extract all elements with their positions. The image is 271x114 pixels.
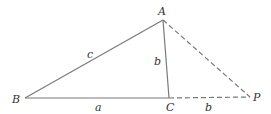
diagram-svg: A B C P c b a b — [0, 0, 271, 114]
edge-ab — [25, 20, 163, 98]
edge-ap-dashed — [163, 20, 250, 97]
vertex-label-c: C — [166, 101, 175, 114]
edge-cp-dashed — [169, 97, 250, 98]
vertex-label-p: P — [252, 91, 261, 104]
edge-label-a: a — [95, 101, 102, 114]
vertex-label-b: B — [11, 93, 20, 106]
triangle-diagram: A B C P c b a b — [0, 0, 271, 114]
vertex-label-a: A — [157, 5, 166, 18]
edge-label-b-cp: b — [205, 101, 212, 114]
edge-label-b-ac: b — [154, 55, 161, 68]
edge-ac — [163, 20, 169, 98]
edge-label-c: c — [87, 48, 93, 61]
